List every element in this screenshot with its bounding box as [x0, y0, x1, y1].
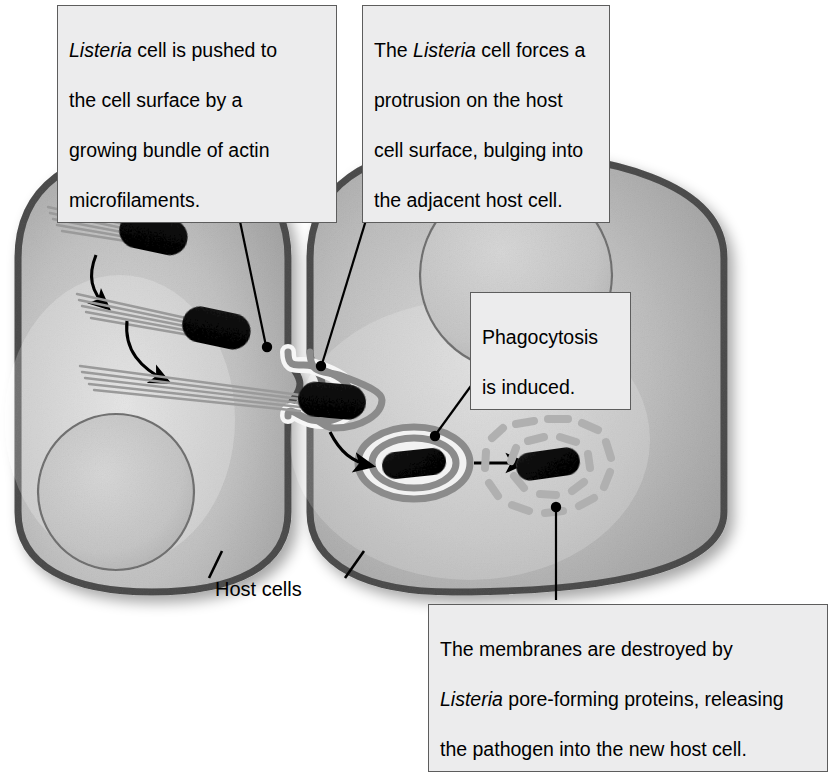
callout-force-line3: cell surface, bulging into: [374, 139, 583, 161]
callout-phagocytosis-induced: Phagocytosis is induced.: [470, 292, 631, 410]
callout-push-line1-italic: Listeria: [69, 39, 132, 61]
callout-destroy-line1: The membranes are destroyed by: [440, 638, 733, 660]
callout-phago-line1: Phagocytosis: [482, 326, 598, 348]
callout-push-line4: microfilaments.: [69, 189, 200, 211]
callout-force-line4: the adjacent host cell.: [374, 189, 563, 211]
callout-destroy-line2-italic: Listeria: [440, 688, 503, 710]
callout-listeria-pushed-to-surface: Listeria cell is pushed to the cell surf…: [57, 5, 337, 223]
callout-membranes-destroyed: The membranes are destroyed by Listeria …: [428, 604, 828, 772]
callout-force-line1-italic: Listeria: [413, 39, 476, 61]
callout-push-line2: the cell surface by a: [69, 89, 242, 111]
callout-force-line2: protrusion on the host: [374, 89, 563, 111]
callout-destroy-line2-rest: pore-forming proteins, releasing: [503, 688, 784, 710]
double-membrane-vacuole: [358, 427, 470, 499]
callout-destroy-line3: the pathogen into the new host cell.: [440, 738, 747, 760]
callout-listeria-forces-protrusion: The Listeria cell forces a protrusion on…: [362, 5, 610, 223]
callout-force-line1-pre: The: [374, 39, 413, 61]
callout-phago-line2: is induced.: [482, 376, 575, 398]
callout-push-line3: growing bundle of actin: [69, 139, 270, 161]
nucleus-left: [38, 414, 194, 570]
callout-force-line1-rest: cell forces a: [476, 39, 585, 61]
label-host-cells: Host cells: [215, 578, 302, 601]
callout-push-line1-rest: cell is pushed to: [132, 39, 277, 61]
